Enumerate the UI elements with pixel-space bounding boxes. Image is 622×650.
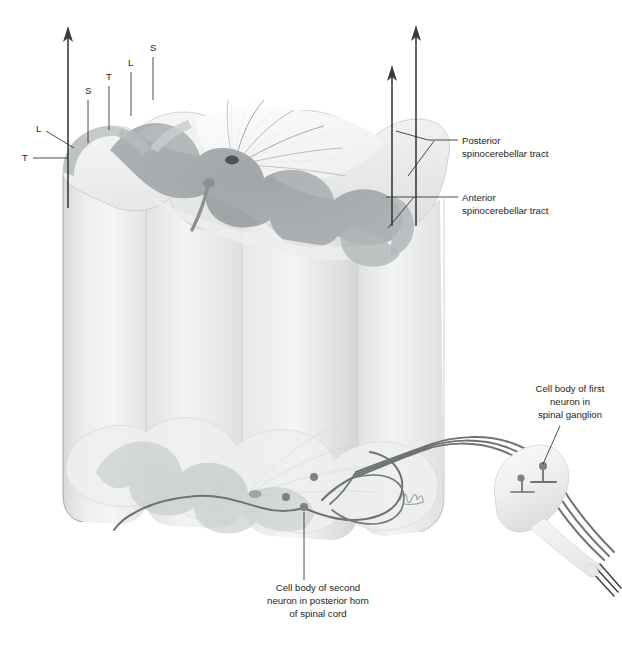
first-neuron-label-line3: spinal ganglion [538, 409, 602, 420]
ganglion-capsule [494, 445, 568, 532]
label-top-T: T [106, 71, 112, 82]
label-top-S1: S [85, 85, 91, 96]
interneuron-soma [282, 493, 290, 501]
posterior-tract-label-line1: Posterior [462, 135, 501, 146]
anterior-tract-label-line1: Anterior [462, 192, 496, 203]
spinal-cord-illustration: T L S T L S Posterior spinocerebellar tr… [0, 0, 622, 650]
label-top-L: L [128, 57, 133, 68]
label-left-L: L [36, 123, 41, 134]
first-neuron-soma-2 [517, 474, 524, 481]
second-neuron-label-line1: Cell body of second [276, 582, 360, 593]
second-neuron-label-line2: neuron in posterior horn [267, 595, 369, 606]
first-neuron-label-line2: neuron in [550, 396, 590, 407]
label-left-T: T [22, 152, 28, 163]
leader-left-L [46, 131, 74, 148]
second-neuron-label-line3: of spinal cord [289, 608, 346, 619]
first-neuron-label-line1: Cell body of first [536, 383, 605, 394]
spinal-ganglion [494, 445, 621, 596]
fissure-apex [203, 179, 215, 188]
anatomical-figure: T L S T L S Posterior spinocerebellar tr… [0, 0, 622, 650]
anterior-tract-label-line2: spinocerebellar tract [462, 205, 549, 216]
second-neuron-soma [300, 503, 308, 511]
central-canal [225, 156, 239, 165]
lower-central-canal [249, 490, 262, 498]
label-top-S2: S [150, 42, 156, 53]
collateral-node [310, 473, 318, 481]
posterior-tract-label-line2: spinocerebellar tract [462, 148, 549, 159]
